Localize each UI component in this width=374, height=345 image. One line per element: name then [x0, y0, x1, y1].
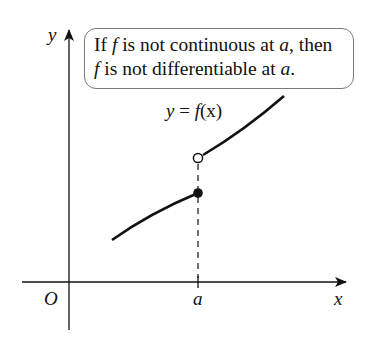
open-point: [193, 153, 202, 162]
left-branch-curve: [112, 193, 198, 240]
x-axis-label: x: [334, 288, 342, 310]
diagram: If f is not continuous at a, then f is n…: [0, 0, 374, 345]
text: is not differentiable at: [99, 58, 280, 79]
callout-line-2: f is not differentiable at a.: [94, 57, 353, 81]
origin-label: O: [44, 288, 58, 310]
function-label: y = f(x): [166, 100, 222, 122]
argument: (x): [200, 100, 222, 121]
text: is not continuous at: [117, 34, 279, 55]
callout-box: If f is not continuous at a, then f is n…: [84, 28, 354, 89]
text: .: [290, 58, 295, 79]
a-tick-label: a: [193, 288, 203, 310]
text: If: [94, 34, 112, 55]
callout-line-1: If f is not continuous at a, then: [94, 33, 353, 57]
a-symbol: a: [280, 58, 290, 79]
a-symbol: a: [279, 34, 289, 55]
filled-point: [193, 188, 203, 198]
equals: =: [174, 100, 194, 121]
text: , then: [289, 34, 332, 55]
y-axis-label: y: [48, 24, 56, 46]
